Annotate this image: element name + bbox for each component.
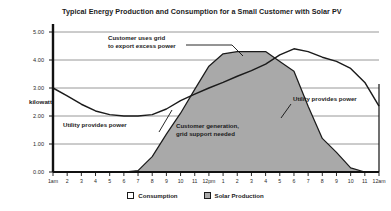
energy-chart: Typical Energy Production and Consumptio… bbox=[0, 0, 391, 211]
y-axis-tick-label: 0.00 bbox=[18, 169, 44, 175]
annotation-export-excess: Customer uses gridto export excess power bbox=[108, 34, 176, 49]
series-areas bbox=[53, 52, 379, 172]
x-axis-tick-label: 5 bbox=[278, 178, 281, 184]
x-axis-tick-label: 12pm bbox=[202, 178, 215, 184]
legend-label-solar-production: Solar Production bbox=[215, 192, 264, 199]
x-axis-tick-label: 2 bbox=[236, 178, 239, 184]
x-axis-tick-label: 10 bbox=[178, 178, 184, 184]
x-axis-tick-label: 9 bbox=[165, 178, 168, 184]
x-axis-tick-label: 12am bbox=[373, 178, 386, 184]
legend-item-solar-production[interactable]: Solar Production bbox=[204, 192, 264, 199]
x-axis-tick-label: 6 bbox=[293, 178, 296, 184]
y-axis-tick-label: 3.00 bbox=[18, 85, 44, 91]
annotation-line: Utility provides power bbox=[63, 121, 127, 129]
x-axis-tick-label: 4 bbox=[94, 178, 97, 184]
annotation-customer-generation: Customer generation,grid support needed bbox=[176, 122, 239, 137]
annotation-line: grid support needed bbox=[176, 130, 239, 138]
x-axis-tick-label: 6 bbox=[122, 178, 125, 184]
x-axis-tick-label: 2 bbox=[66, 178, 69, 184]
x-axis-tick-label: 1 bbox=[222, 178, 225, 184]
annotation-utility-provides-power-left: Utility provides power bbox=[63, 121, 127, 129]
x-axis-tick-label: 11 bbox=[192, 178, 197, 184]
y-axis-tick-label: 5.00 bbox=[18, 29, 44, 35]
x-axis-tick-label: 1am bbox=[48, 178, 58, 184]
x-axis-tick-label: 9 bbox=[335, 178, 338, 184]
x-axis-tick-label: 7 bbox=[137, 178, 140, 184]
x-axis-tick-label: 8 bbox=[151, 178, 154, 184]
x-axis-tick-label: 10 bbox=[348, 178, 354, 184]
x-axis-tick-label: 8 bbox=[321, 178, 324, 184]
y-axis-tick-label: 1.00 bbox=[18, 141, 44, 147]
y-axis-tick-label: 4.00 bbox=[18, 57, 44, 63]
annotation-line: Utility provides power bbox=[293, 95, 357, 103]
chart-legend: Consumption Solar Production bbox=[0, 192, 391, 199]
annotation-line: to export excess power bbox=[108, 42, 176, 50]
legend-label-consumption: Consumption bbox=[138, 192, 177, 199]
y-axis-title: kilowatt bbox=[10, 98, 52, 105]
x-axis-tick-label: 7 bbox=[307, 178, 310, 184]
legend-swatch-consumption-icon bbox=[127, 192, 134, 199]
legend-item-consumption[interactable]: Consumption bbox=[127, 192, 177, 199]
x-axis-tick-label: 5 bbox=[108, 178, 111, 184]
x-axis-tick-label: 11 bbox=[362, 178, 367, 184]
annotation-utility-provides-power-right: Utility provides power bbox=[293, 95, 357, 103]
x-axis-tick-label: 3 bbox=[80, 178, 83, 184]
y-axis-tick-label: 2.00 bbox=[18, 113, 44, 119]
annotation-line: Customer uses grid bbox=[108, 34, 176, 42]
x-axis-tick-label: 3 bbox=[250, 178, 253, 184]
legend-swatch-solar-production-icon bbox=[204, 192, 211, 199]
x-axis-tick-label: 4 bbox=[264, 178, 267, 184]
annotation-line: Customer generation, bbox=[176, 122, 239, 130]
